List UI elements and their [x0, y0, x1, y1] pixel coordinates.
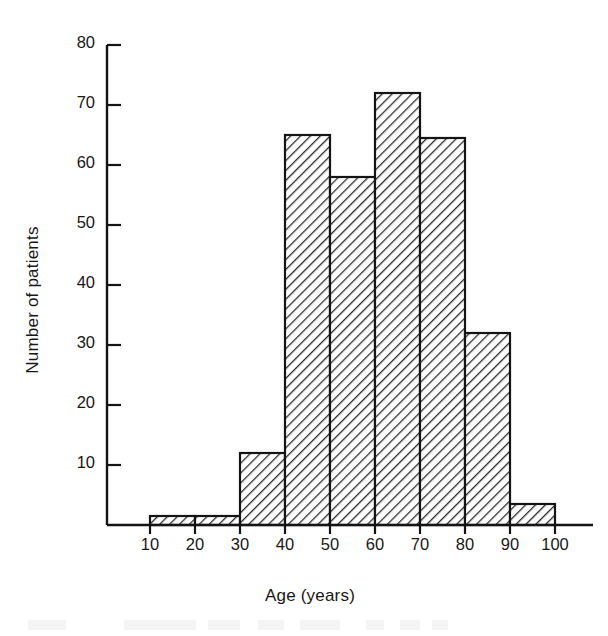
plot-area: [0, 0, 608, 636]
caption-ghost: [28, 620, 448, 630]
histogram-bar: [240, 453, 285, 525]
y-ticks-group: [107, 45, 121, 465]
histogram-bar: [510, 504, 555, 525]
histogram-bar: [465, 333, 510, 525]
histogram-bar: [375, 93, 420, 525]
histogram-bar: [330, 177, 375, 525]
histogram-bar: [420, 138, 465, 525]
bars-group: [150, 93, 555, 525]
histogram-bar: [150, 516, 195, 525]
histogram-figure: Number of patients Age (years) 80 70 60 …: [0, 0, 608, 636]
histogram-bar: [285, 135, 330, 525]
histogram-bar: [195, 516, 240, 525]
x-ticks-group: [150, 525, 555, 534]
